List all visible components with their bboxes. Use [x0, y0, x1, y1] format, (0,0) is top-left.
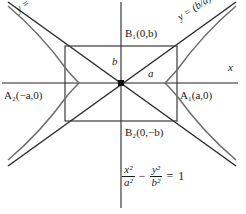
vertex-right-label: A₁(a,0): [180, 90, 212, 101]
hyperbola-equation: x² a² − y² b² = 1: [122, 164, 185, 188]
equation-x-numerator: x²: [122, 164, 134, 177]
vertex-left-label: A₂(−a,0): [4, 90, 42, 101]
equation-x-denominator: a²: [122, 177, 135, 189]
equation-equals-sign: =: [165, 169, 174, 184]
equation-minus-sign: −: [138, 169, 147, 184]
equation-y-numerator: y²: [150, 164, 162, 177]
covertex-bottom-label: B₂(0,−b): [125, 127, 163, 138]
hyperbola-figure: y = − (b/a)x y = (b/a)x B₁(0,b) B₂(0,−b)…: [0, 0, 246, 214]
x-axis-label: x: [228, 62, 233, 73]
equation-fraction-y: y² b²: [150, 164, 163, 188]
equation-right-hand-side: 1: [177, 169, 185, 184]
origin-dot: [118, 80, 124, 86]
covertex-top-label: B₁(0,b): [125, 28, 157, 39]
equation-fraction-x: x² a²: [122, 164, 135, 188]
equation-y-denominator: b²: [150, 177, 163, 189]
semi-minor-axis-label: b: [112, 56, 118, 67]
semi-major-axis-label: a: [148, 68, 154, 79]
